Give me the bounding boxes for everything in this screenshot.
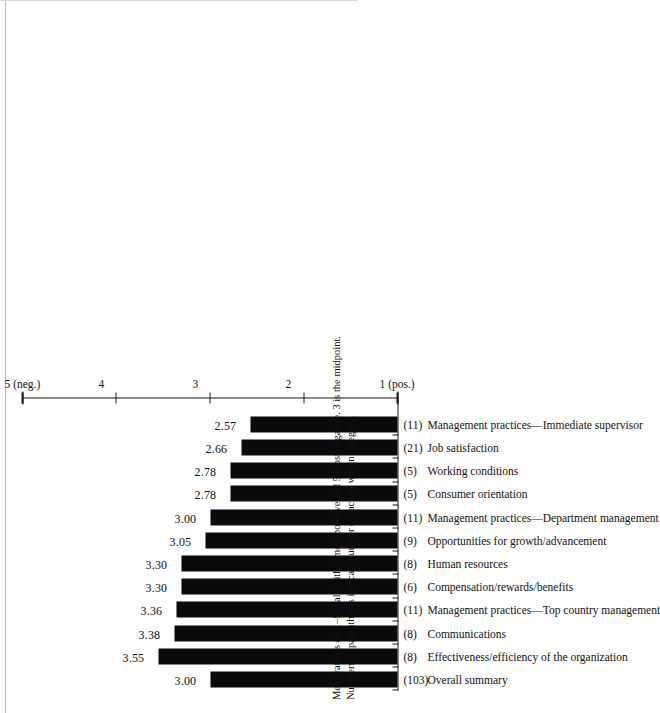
category-axis-tick [392, 434, 398, 435]
bar-value-label: 2.57 [214, 418, 236, 433]
bar [210, 671, 398, 687]
bar-value-label: 3.00 [174, 673, 196, 688]
category-axis-tick [392, 666, 398, 667]
bar [181, 578, 397, 594]
bar-value-label: 2.66 [205, 441, 227, 456]
value-axis-tick-label: 3 [192, 377, 198, 389]
bar [181, 555, 397, 571]
category-label: Management practices—Immediate superviso… [427, 418, 642, 430]
category-count-label: (5) [403, 464, 416, 476]
category-count-label: (103) [403, 673, 428, 685]
value-axis-tick [303, 392, 304, 403]
bar-value-label: 3.30 [145, 580, 167, 595]
category-axis-tick [392, 550, 398, 551]
footnote-line-1: Mean ratings on 1–5 scale with 1 most po… [330, 336, 344, 700]
bar [230, 462, 397, 478]
bar [158, 648, 397, 664]
category-axis-tick [392, 643, 398, 644]
value-axis-tick [115, 392, 116, 403]
footnote-line-2: Numbers in parentheses indicate number o… [344, 336, 358, 700]
category-label: Opportunities for growth/advancement [427, 534, 606, 546]
value-axis-tick-label: 2 [285, 377, 291, 389]
value-axis-tick [209, 392, 210, 403]
category-label: Overall summary [427, 673, 507, 685]
bar-value-label: 2.78 [194, 487, 216, 502]
bar-value-label: 2.78 [194, 464, 216, 479]
bar-value-label: 3.30 [145, 557, 167, 572]
bar [176, 601, 397, 617]
category-count-label: (21) [403, 441, 422, 453]
category-label: Job satisfaction [427, 441, 498, 453]
bar [230, 485, 397, 501]
value-axis-tick [21, 392, 22, 403]
category-count-label: (9) [403, 534, 416, 546]
bar [210, 509, 398, 525]
category-label: Management practices—Department manageme… [427, 511, 658, 523]
bar-value-label: 3.38 [138, 627, 160, 642]
bar-value-label: 3.05 [169, 534, 191, 549]
bar-value-label: 3.55 [122, 650, 144, 665]
category-axis-tick [392, 689, 398, 690]
value-axis-tick-label: 1 (pos.) [379, 377, 414, 389]
bar [241, 439, 397, 455]
category-label: Working conditions [427, 464, 518, 476]
category-count-label: (11) [403, 603, 422, 615]
bar-value-label: 3.36 [140, 603, 162, 618]
category-count-label: (8) [403, 627, 416, 639]
category-label: Management practices—Top country managem… [427, 603, 660, 615]
category-count-label: (8) [403, 557, 416, 569]
bar [205, 532, 397, 548]
bar-value-label: 3.00 [174, 511, 196, 526]
category-axis-tick [392, 620, 398, 621]
figure-footnote: Mean ratings on 1–5 scale with 1 most po… [330, 336, 357, 700]
category-axis-tick [392, 504, 398, 505]
value-axis-tick [396, 392, 397, 403]
category-axis-tick [392, 481, 398, 482]
category-axis-tick [392, 573, 398, 574]
bar [250, 416, 397, 432]
value-axis-tick-label: 5 (neg.) [4, 377, 40, 389]
category-label: Effectiveness/efficiency of the organiza… [427, 650, 627, 662]
category-count-label: (11) [403, 418, 422, 430]
bar [174, 625, 397, 641]
category-label: Communications [427, 627, 506, 639]
category-axis-tick [392, 597, 398, 598]
category-label: Human resources [427, 557, 507, 569]
category-axis-tick [392, 527, 398, 528]
category-count-label: (8) [403, 650, 416, 662]
category-label: Compensation/rewards/benefits [427, 580, 573, 592]
value-axis-tick-label: 4 [98, 377, 104, 389]
category-count-label: (6) [403, 580, 416, 592]
category-count-label: (11) [403, 511, 422, 523]
category-axis-tick [392, 457, 398, 458]
category-count-label: (5) [403, 487, 416, 499]
category-label: Consumer orientation [427, 487, 527, 499]
